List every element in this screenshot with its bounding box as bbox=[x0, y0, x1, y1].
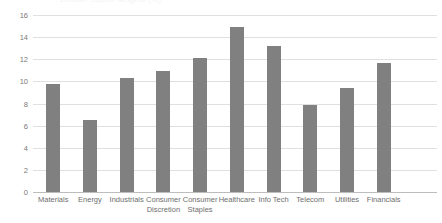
bar bbox=[340, 88, 354, 192]
x-axis-label: Utilities bbox=[328, 195, 367, 205]
y-tick-label-16: 16 bbox=[20, 11, 28, 20]
bar-series bbox=[33, 15, 437, 192]
y-tick-label-4: 4 bbox=[24, 143, 28, 152]
y-tick-label-6: 6 bbox=[24, 121, 28, 130]
bar-chart: Exhibit: Sector weights (%) 024681012141… bbox=[0, 0, 442, 223]
bar bbox=[267, 46, 281, 192]
bar bbox=[303, 105, 317, 192]
y-tick-label-8: 8 bbox=[24, 99, 28, 108]
x-axis-label: Energy bbox=[71, 195, 110, 205]
bar bbox=[193, 58, 207, 192]
y-tick-label-10: 10 bbox=[20, 77, 28, 86]
gridline-0: 0 bbox=[33, 192, 437, 193]
x-axis-label: Consumer Discretion bbox=[144, 195, 183, 214]
bar bbox=[120, 78, 134, 192]
y-tick-label-0: 0 bbox=[24, 188, 28, 197]
x-axis-label: Materials bbox=[34, 195, 73, 205]
x-axis-label: Telecom bbox=[291, 195, 330, 205]
bar bbox=[46, 84, 60, 192]
y-tick-label-14: 14 bbox=[20, 33, 28, 42]
x-axis-label: Healthcare bbox=[218, 195, 257, 205]
bar bbox=[377, 63, 391, 192]
x-axis-label: Info Tech bbox=[254, 195, 293, 205]
chart-title: Exhibit: Sector weights (%) bbox=[60, 0, 161, 4]
bar bbox=[156, 71, 170, 192]
x-axis-labels: MaterialsEnergyIndustrialsConsumer Discr… bbox=[33, 195, 437, 223]
x-axis-label: Industrials bbox=[107, 195, 146, 205]
y-tick-label-12: 12 bbox=[20, 55, 28, 64]
plot-area: 0246810121416 bbox=[33, 15, 437, 192]
x-axis-label: Financials bbox=[364, 195, 403, 205]
x-axis-label: Consumer Staples bbox=[181, 195, 220, 214]
y-tick-label-2: 2 bbox=[24, 165, 28, 174]
bar bbox=[83, 120, 97, 192]
bar bbox=[230, 27, 244, 192]
clipped-title-strip: Exhibit: Sector weights (%) bbox=[0, 0, 442, 7]
